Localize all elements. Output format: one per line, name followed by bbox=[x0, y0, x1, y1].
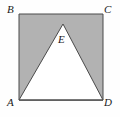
geometry-figure: B C A D E bbox=[0, 0, 120, 117]
vertex-label-b: B bbox=[7, 4, 14, 15]
vertex-label-d: D bbox=[104, 97, 112, 108]
vertex-label-c: C bbox=[104, 4, 111, 15]
geometry-canvas bbox=[0, 0, 120, 117]
vertex-label-e: E bbox=[58, 34, 65, 45]
vertex-label-a: A bbox=[7, 97, 14, 108]
